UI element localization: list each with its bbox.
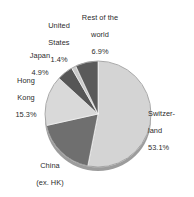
pie-slice-japan	[59, 68, 98, 114]
label-line-2: world	[91, 30, 109, 39]
pie-chart-figure: United States 1.4% Rest of the world 6.9…	[0, 0, 194, 197]
label-line-1: Hong	[17, 76, 35, 85]
label-line-2: land	[148, 126, 162, 135]
pie-slice-rest-of-the-world	[76, 61, 98, 114]
label-line-1: Switzer-	[148, 109, 175, 118]
slice-label-rest-of-world: Rest of the world 6.9%	[74, 5, 126, 65]
slice-label-china: China (ex. HK) 18.4%	[22, 153, 78, 197]
slice-label-hong-kong: Hong Kong 15.3%	[4, 68, 48, 128]
label-value: 15.3%	[4, 111, 48, 120]
label-value: 18.4%	[22, 196, 78, 197]
label-line-1: Japan	[30, 51, 50, 60]
label-value: 6.9%	[74, 48, 126, 57]
label-line-1: Rest of the	[82, 13, 118, 22]
label-line-2: (ex. HK)	[36, 178, 64, 187]
label-value: 53.1%	[148, 144, 194, 153]
slice-label-switzerland: Switzer- land 53.1%	[148, 101, 194, 161]
pie-slice-switzerland	[88, 61, 151, 167]
label-line-2: Kong	[17, 93, 34, 102]
label-line-1: China	[40, 161, 60, 170]
label-line-1: United	[48, 21, 70, 30]
